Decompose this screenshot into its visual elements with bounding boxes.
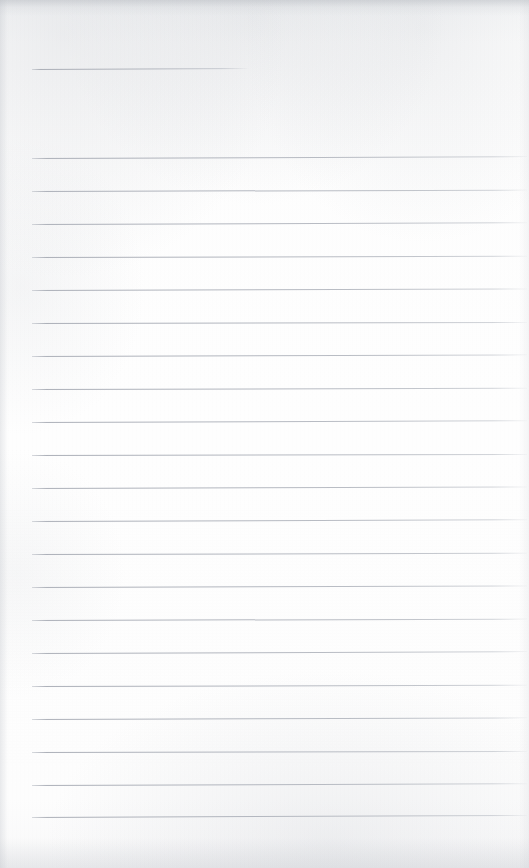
short-rule-line bbox=[32, 68, 248, 70]
writing-area[interactable] bbox=[32, 80, 525, 818]
notebook-page bbox=[0, 0, 529, 868]
